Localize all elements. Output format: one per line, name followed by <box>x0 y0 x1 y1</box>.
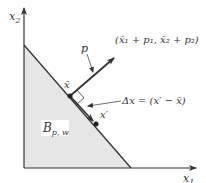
x-bar-label: x̄ <box>64 79 70 90</box>
right-angle-marker <box>77 90 84 104</box>
y-axis-label: x2 <box>9 10 20 25</box>
x-axis-label: x1 <box>183 172 194 183</box>
p-label: p <box>81 42 88 55</box>
price-vector <box>70 58 114 96</box>
x-prime-point <box>94 122 99 127</box>
budget-diagram: x2 x1 p (x̄₁ + p₁, x̄₂ + p₂) x̄ x′ Δx = … <box>0 0 206 183</box>
x-bar-point <box>68 94 73 99</box>
x-prime-label: x′ <box>100 109 109 120</box>
delta-leader-line <box>88 101 121 106</box>
delta-x-label: Δx = (x′ − x̄) <box>121 95 186 106</box>
p-tip-label: (x̄₁ + p₁, x̄₂ + p₂) <box>115 34 199 45</box>
p-leader-line <box>87 54 93 72</box>
